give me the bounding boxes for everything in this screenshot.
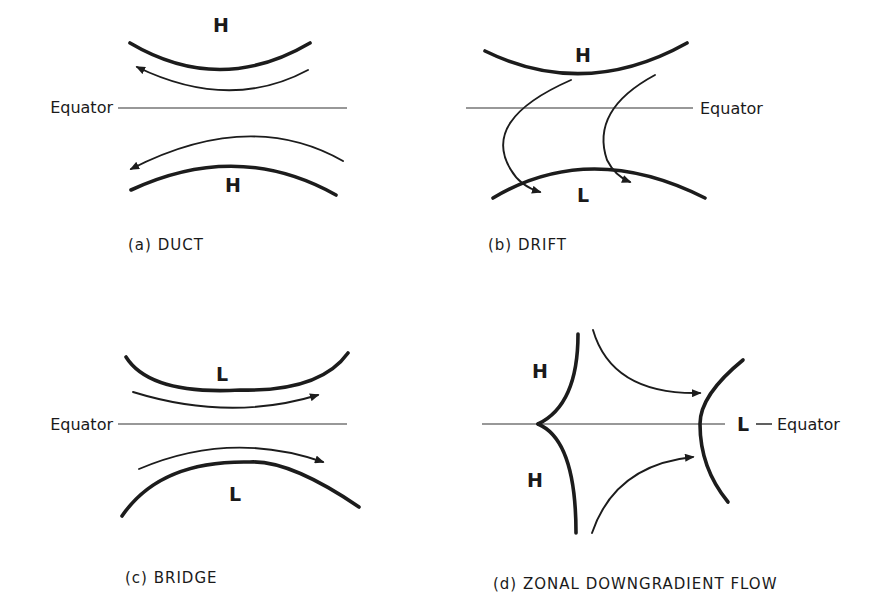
panel-caption: (b) DRIFT [488,236,567,254]
isobar-low-south [493,169,705,198]
high-pressure-label-north: H [532,360,548,382]
high-pressure-label-south: H [225,174,241,196]
high-pressure-label-south: H [527,469,543,491]
low-pressure-label: L [737,413,749,435]
equator-label: Equator [700,99,763,118]
high-pressure-label-north: H [213,14,229,36]
flow-arrow-cross-equatorial-2 [603,75,655,182]
low-pressure-label: L [577,184,589,206]
panel-caption: (a) DUCT [128,236,204,254]
panel-d-zonal-downgradient-flow: H H L Equator (d) ZONAL DOWNGRADIENT FLO… [482,330,840,593]
panel-caption: (d) ZONAL DOWNGRADIENT FLOW [493,575,777,593]
flow-arrow-cross-equatorial-1 [503,80,571,192]
panel-caption: (c) BRIDGE [125,569,218,587]
low-pressure-label-south: L [229,483,241,505]
flow-arrow-south-eastward [139,448,323,469]
equator-label: Equator [777,415,840,434]
flow-regimes-figure: Equator H H (a) DUCT Equator H L (b) DRI… [0,0,886,614]
equator-label: Equator [50,415,113,434]
panel-c-bridge: Equator L L (c) BRIDGE [50,353,359,587]
panel-b-drift: Equator H L (b) DRIFT [466,43,763,254]
isobar-low-north [126,353,348,391]
panel-a-duct: Equator H H (a) DUCT [50,14,347,254]
flow-arrow-north-to-low [593,330,700,393]
isobar-high-north [130,43,310,70]
flow-arrow-south-to-low [592,457,693,533]
high-pressure-label: H [575,44,591,66]
low-pressure-label-north: L [216,363,228,385]
flow-arrow-south-westward [131,136,343,169]
flow-arrow-north-eastward [133,392,318,408]
equator-label: Equator [50,98,113,117]
isobar-high-south-branch [538,424,576,533]
